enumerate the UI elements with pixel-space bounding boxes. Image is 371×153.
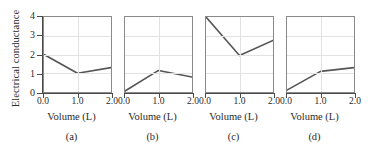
panel-caption-b: (b) — [112, 131, 193, 142]
gridline-horizontal — [125, 36, 192, 37]
y-tick-label: 1 — [30, 69, 35, 79]
x-axis-title-a: Volume (L) — [31, 111, 112, 122]
panel-a: Volume (L) (a) 0.01.02.001234 — [31, 0, 112, 153]
plot-area-b — [124, 16, 193, 93]
x-axis-title-b: Volume (L) — [112, 111, 193, 122]
plot-area-d — [286, 16, 355, 93]
gridline-horizontal — [44, 36, 111, 37]
x-tick-label-d: 1.0 — [315, 97, 327, 107]
panel-d: Volume (L) (d) 0.01.02.0 — [274, 0, 355, 153]
x-tick-label-c: 1.0 — [234, 97, 246, 107]
gridline-horizontal — [44, 73, 111, 74]
conductance-figure: Electrical conductance Volume (L) (a) 0.… — [0, 0, 371, 153]
gridline-horizontal — [125, 73, 192, 74]
panel-c: Volume (L) (c) 0.01.02.0 — [193, 0, 274, 153]
y-tick-label: 4 — [30, 11, 35, 21]
x-tick-label-b: 0.0 — [118, 97, 130, 107]
y-tick: 2 — [37, 55, 43, 56]
y-tick: 4 — [37, 16, 43, 17]
x-tick-label-d: 0.0 — [280, 97, 292, 107]
x-tick-label-b: 1.0 — [153, 97, 165, 107]
panel-caption-c: (c) — [193, 131, 274, 142]
gridline-horizontal — [125, 55, 192, 56]
panel-caption-d: (d) — [274, 131, 355, 142]
y-axis-title: Electrical conductance — [10, 7, 21, 111]
y-tick: 3 — [37, 35, 43, 36]
gridline-horizontal — [206, 73, 273, 74]
y-tick: 0 — [37, 93, 43, 94]
plot-area-a — [43, 16, 112, 93]
gridline-horizontal — [44, 55, 111, 56]
x-axis-title-c: Volume (L) — [193, 111, 274, 122]
panel-b: Volume (L) (b) 0.01.02.0 — [112, 0, 193, 153]
x-axis-title-d: Volume (L) — [274, 111, 355, 122]
gridline-horizontal — [287, 36, 354, 37]
plot-area-c — [205, 16, 274, 93]
x-tick-label-c: 0.0 — [199, 97, 211, 107]
gridline-horizontal — [206, 55, 273, 56]
gridline-horizontal — [287, 55, 354, 56]
x-tick-label-a: 0.0 — [37, 97, 49, 107]
y-tick: 1 — [37, 74, 43, 75]
y-tick-label: 3 — [30, 30, 35, 40]
panel-caption-a: (a) — [31, 131, 112, 142]
y-tick-label: 0 — [30, 88, 35, 98]
y-tick-label: 2 — [30, 50, 35, 60]
gridline-horizontal — [206, 36, 273, 37]
x-tick-label-d: 2.0 — [349, 97, 361, 107]
gridline-horizontal — [287, 73, 354, 74]
x-tick-label-a: 1.0 — [72, 97, 84, 107]
